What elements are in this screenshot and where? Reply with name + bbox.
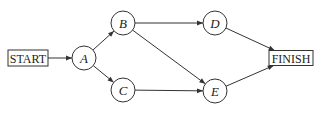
edge-a-to-c [93,66,113,83]
edge-e-to-finish [226,66,274,87]
nodes: STARTABCDEFINISH [8,11,313,103]
node-d: D [203,11,227,35]
edge-d-to-finish [226,28,275,50]
node-finish: FINISH [269,51,313,66]
node-label: FINISH [272,52,311,66]
node-label: E [210,84,219,99]
node-label: D [209,16,220,31]
node-a: A [72,46,96,70]
node-e: E [203,79,227,103]
network-diagram: STARTABCDEFINISH [0,0,319,113]
node-label: B [119,16,127,31]
edge-c-to-e [135,90,203,91]
edge-a-to-b [93,31,114,50]
node-start: START [8,50,48,66]
node-label: C [119,83,128,98]
node-label: START [10,52,47,66]
edge-b-to-e [133,30,206,84]
node-b: B [111,11,135,35]
node-c: C [111,78,135,102]
node-label: A [79,51,88,66]
